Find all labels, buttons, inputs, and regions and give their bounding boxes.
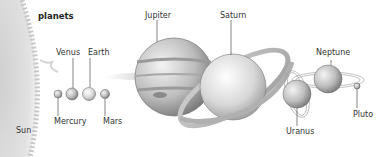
venus-shape: [66, 88, 78, 100]
pluto-label: Pluto: [353, 110, 373, 119]
pluto-shape: [354, 83, 360, 89]
saturn-shape: [200, 54, 266, 120]
jupiter-label: Jupiter: [145, 11, 171, 20]
mars-shape: [101, 90, 110, 99]
mercury-shape: [54, 90, 62, 98]
mercury-label: Mercury: [54, 117, 86, 126]
diagram-title: planets: [38, 11, 74, 21]
sun-label: Sun: [16, 126, 31, 135]
earth-shape: [83, 88, 96, 101]
planets-illustration: [0, 0, 382, 157]
mars-label: Mars: [103, 117, 122, 126]
neptune-label: Neptune: [316, 48, 350, 57]
earth-label: Earth: [88, 48, 109, 57]
neptune-shape: [314, 65, 342, 93]
planets-diagram: planets Sun Mercury Venus Earth Mars Jup…: [0, 0, 382, 157]
saturn-label: Saturn: [220, 11, 246, 20]
venus-label: Venus: [56, 48, 80, 57]
uranus-shape: [283, 80, 311, 108]
uranus-label: Uranus: [286, 127, 314, 136]
